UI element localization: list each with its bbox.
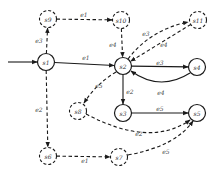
edge-s1-s9 (46, 28, 47, 54)
node-label-s11: s11 (193, 17, 204, 24)
edge-label-s2-s3: e2 (126, 88, 134, 95)
node-s2: s2 (115, 58, 132, 75)
node-label-s2: s2 (120, 63, 127, 70)
node-label-s5: s5 (194, 110, 201, 117)
edge-label-s4-s2: e4 (157, 89, 165, 96)
node-label-s1: s1 (43, 59, 50, 66)
node-s9: s9 (40, 11, 57, 28)
edge-s9-s10 (56, 19, 112, 20)
node-s7: s7 (111, 149, 128, 166)
edge-s7-s5 (128, 121, 193, 155)
node-label-s8: s8 (75, 108, 82, 115)
state-graph: e1e3e2e1e4e3e4e5e3e4e2e5e2e1e5 s1s2s3s4s… (0, 0, 220, 177)
edge-label-s8-s5: e2 (135, 130, 143, 137)
edge-label-s2-s4: e3 (156, 59, 164, 66)
edge-label-s3-s5: e5 (156, 105, 164, 112)
node-s5: s5 (189, 105, 206, 122)
edge-label-s10-s2: e4 (109, 41, 117, 48)
edge-label-s11-s2: e4 (160, 41, 168, 48)
edge-label-s7-s5: e5 (162, 148, 170, 155)
edge-label-s2-s11: e3 (142, 30, 150, 37)
node-s1: s1 (38, 54, 55, 71)
node-s8: s8 (70, 103, 87, 120)
node-s4: s4 (189, 59, 206, 76)
node-label-s9: s9 (45, 16, 52, 23)
node-s11: s11 (190, 12, 207, 29)
edge-s2-s11 (128, 22, 188, 59)
node-s3: s3 (115, 105, 132, 122)
edge-s10-s2 (121, 28, 122, 57)
node-label-s3: s3 (120, 110, 127, 117)
node-label-s7: s7 (116, 154, 123, 161)
edge-s1-s2 (54, 62, 114, 65)
node-s10: s10 (113, 12, 130, 29)
node-label-s4: s4 (194, 64, 201, 71)
edge-label-s1-s6: e2 (35, 106, 43, 113)
edge-s4-s2 (131, 71, 190, 82)
edge-label-s6-s7: e1 (81, 157, 88, 164)
node-label-s6: s6 (45, 153, 52, 160)
node-s6: s6 (40, 148, 57, 165)
edge-label-s1-s9: e3 (35, 37, 43, 44)
edge-s2-s4 (131, 66, 188, 67)
edge-label-s1-s2: e1 (82, 54, 89, 61)
edge-label-s9-s10: e1 (80, 11, 87, 18)
edge-s1-s6 (46, 70, 48, 147)
node-label-s10: s10 (116, 17, 127, 24)
edge-label-s2-s8: e5 (95, 82, 103, 89)
